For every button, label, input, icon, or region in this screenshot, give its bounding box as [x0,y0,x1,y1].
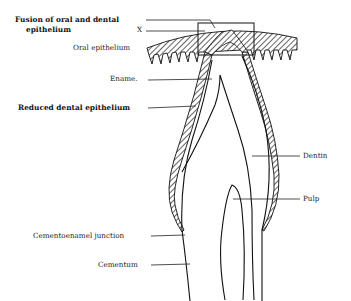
reduced-epithelium-leader [148,106,196,108]
label-x: X [137,25,143,34]
tooth-diagram: Fusion of oral and dental epithelium X O… [0,0,351,301]
label-fusion-line2: epithelium [26,25,71,34]
label-cementoenamel-junction: Cementoenamel junction [33,231,125,240]
label-dentin: Dentin [303,151,328,160]
label-reduced-dental-epithelium: Reduced dental epithelium [18,103,130,112]
cej-leader [151,235,185,236]
reduced-dental-epithelium [169,52,279,232]
cementum-leader [151,264,190,265]
label-oral-epithelium: Oral epithelium [73,43,130,52]
label-pulp: Pulp [303,194,320,203]
label-cementum: Cementum [98,260,138,269]
label-fusion-line1: Fusion of oral and dental [15,15,119,24]
label-enamel: Ename. [110,74,138,83]
